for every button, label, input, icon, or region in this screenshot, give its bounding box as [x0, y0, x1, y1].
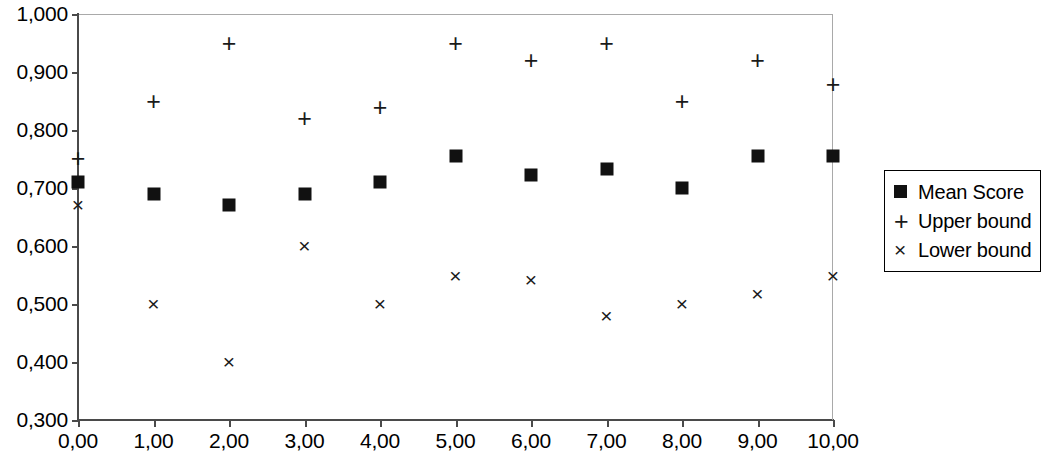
- data-point-plus: +: [445, 32, 467, 54]
- chart-container: 1,0000,9000,8000,7000,6000,5000,4000,300…: [0, 0, 1049, 460]
- x-axis-tick: [305, 420, 307, 427]
- data-point-cross: ×: [520, 269, 542, 291]
- data-point-plus: +: [747, 49, 769, 71]
- data-point-plus: +: [294, 107, 316, 129]
- data-point-plus: +: [143, 90, 165, 112]
- y-axis-tick-label: 0,300: [0, 409, 68, 430]
- data-point-plus: +: [520, 49, 542, 71]
- y-axis-tick: [72, 304, 79, 306]
- data-point-plus: +: [369, 96, 391, 118]
- plot-frame-top: [78, 14, 833, 15]
- x-axis-tick-label: 3,00: [284, 430, 324, 451]
- plot-area: +++++++++++×××××××××××: [78, 14, 833, 420]
- y-axis-tick-labels: 1,0000,9000,8000,7000,6000,5000,4000,300: [0, 14, 68, 420]
- data-point-cross: ×: [596, 305, 618, 327]
- x-axis-tick-label: 0,00: [58, 430, 98, 451]
- data-point-square: [223, 199, 236, 212]
- data-point-plus: +: [67, 147, 89, 169]
- y-axis-tick-label: 0,600: [0, 235, 68, 256]
- legend-marker-plus-icon: +: [894, 210, 918, 232]
- y-axis-tick: [72, 14, 79, 16]
- data-point-square: [449, 150, 462, 163]
- legend-item-label: Mean Score: [918, 182, 1024, 202]
- data-point-cross: ×: [369, 293, 391, 315]
- data-point-cross: ×: [747, 283, 769, 305]
- data-point-cross: ×: [445, 265, 467, 287]
- data-point-plus: +: [596, 32, 618, 54]
- x-axis-tick: [456, 420, 458, 427]
- x-axis-tick-labels: 0,001,002,003,004,005,006,007,008,009,00…: [78, 430, 833, 456]
- data-point-square: [72, 175, 85, 188]
- x-axis-tick: [682, 420, 684, 427]
- data-point-cross: ×: [294, 235, 316, 257]
- y-axis-tick-label: 0,400: [0, 351, 68, 372]
- x-axis-tick: [531, 420, 533, 427]
- data-point-cross: ×: [143, 293, 165, 315]
- y-axis-tick: [72, 246, 79, 248]
- x-axis-tick-label: 2,00: [209, 430, 249, 451]
- x-axis-tick-label: 5,00: [435, 430, 475, 451]
- y-axis-tick-label: 0,500: [0, 293, 68, 314]
- y-axis-tick: [72, 188, 79, 190]
- x-axis-tick-label: 9,00: [737, 430, 777, 451]
- data-point-square: [147, 187, 160, 200]
- data-point-cross: ×: [671, 293, 693, 315]
- data-point-plus: +: [218, 32, 240, 54]
- y-axis-tick-label: 1,000: [0, 3, 68, 24]
- x-axis-tick-label: 8,00: [662, 430, 702, 451]
- chart-legend: Mean Score+Upper bound×Lower bound: [884, 170, 1041, 272]
- data-point-cross: ×: [67, 194, 89, 216]
- x-axis-tick: [758, 420, 760, 427]
- data-point-square: [676, 182, 689, 195]
- data-point-cross: ×: [218, 351, 240, 373]
- y-axis-tick: [72, 362, 79, 364]
- data-point-square: [600, 162, 613, 175]
- x-axis-tick-label: 7,00: [586, 430, 626, 451]
- legend-item-label: Lower bound: [918, 240, 1031, 260]
- x-axis-tick: [607, 420, 609, 427]
- x-axis-tick-label: 6,00: [511, 430, 551, 451]
- y-axis-tick: [72, 72, 79, 74]
- data-point-cross: ×: [822, 265, 844, 287]
- legend-item: ×Lower bound: [894, 235, 1034, 264]
- legend-marker-square-icon: [894, 185, 918, 198]
- y-axis-tick-label: 0,800: [0, 119, 68, 140]
- data-point-square: [298, 187, 311, 200]
- x-axis-tick: [154, 420, 156, 427]
- x-axis-tick: [229, 420, 231, 427]
- x-axis-tick-label: 1,00: [133, 430, 173, 451]
- x-axis-tick-label: 10,00: [807, 430, 859, 451]
- y-axis-tick: [72, 130, 79, 132]
- legend-item: +Upper bound: [894, 206, 1034, 235]
- data-point-square: [525, 169, 538, 182]
- y-axis-tick-label: 0,900: [0, 61, 68, 82]
- data-point-square: [374, 176, 387, 189]
- data-point-plus: +: [671, 90, 693, 112]
- data-point-plus: +: [822, 73, 844, 95]
- x-axis-tick-label: 4,00: [360, 430, 400, 451]
- legend-marker-cross-icon: ×: [894, 239, 918, 261]
- data-point-square: [751, 150, 764, 163]
- y-axis-tick-label: 0,700: [0, 177, 68, 198]
- data-point-square: [827, 150, 840, 163]
- x-axis-tick: [833, 420, 835, 427]
- legend-item-label: Upper bound: [918, 211, 1031, 231]
- x-axis-tick: [78, 420, 80, 427]
- legend-item: Mean Score: [894, 177, 1034, 206]
- x-axis-tick: [380, 420, 382, 427]
